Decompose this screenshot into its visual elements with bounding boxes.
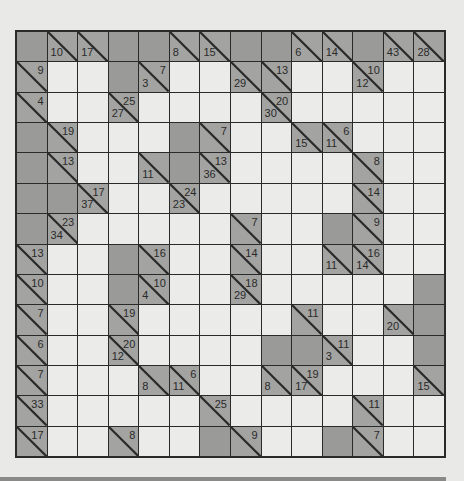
entry-cell[interactable] xyxy=(262,153,292,182)
entry-cell[interactable] xyxy=(323,305,353,334)
entry-cell[interactable] xyxy=(323,93,353,122)
entry-cell[interactable] xyxy=(200,305,230,334)
entry-cell[interactable] xyxy=(414,93,444,122)
entry-cell[interactable] xyxy=(231,123,261,152)
entry-cell[interactable] xyxy=(48,366,78,395)
entry-cell[interactable] xyxy=(414,123,444,152)
entry-cell[interactable] xyxy=(200,62,230,91)
entry-cell[interactable] xyxy=(231,184,261,213)
entry-cell[interactable] xyxy=(414,214,444,243)
entry-cell[interactable] xyxy=(200,275,230,304)
entry-cell[interactable] xyxy=(414,62,444,91)
entry-cell[interactable] xyxy=(78,366,108,395)
entry-cell[interactable] xyxy=(262,396,292,425)
entry-cell[interactable] xyxy=(48,62,78,91)
entry-cell[interactable] xyxy=(170,214,200,243)
entry-cell[interactable] xyxy=(384,427,414,456)
entry-cell[interactable] xyxy=(262,275,292,304)
entry-cell[interactable] xyxy=(323,62,353,91)
entry-cell[interactable] xyxy=(262,123,292,152)
entry-cell[interactable] xyxy=(262,305,292,334)
entry-cell[interactable] xyxy=(384,184,414,213)
entry-cell[interactable] xyxy=(78,93,108,122)
entry-cell[interactable] xyxy=(231,396,261,425)
entry-cell[interactable] xyxy=(139,123,169,152)
entry-cell[interactable] xyxy=(323,275,353,304)
entry-cell[interactable] xyxy=(48,396,78,425)
entry-cell[interactable] xyxy=(200,184,230,213)
entry-cell[interactable] xyxy=(353,123,383,152)
entry-cell[interactable] xyxy=(414,427,444,456)
entry-cell[interactable] xyxy=(353,93,383,122)
entry-cell[interactable] xyxy=(170,245,200,274)
entry-cell[interactable] xyxy=(323,184,353,213)
entry-cell[interactable] xyxy=(384,245,414,274)
entry-cell[interactable] xyxy=(109,184,139,213)
entry-cell[interactable] xyxy=(384,153,414,182)
entry-cell[interactable] xyxy=(200,214,230,243)
entry-cell[interactable] xyxy=(109,123,139,152)
entry-cell[interactable] xyxy=(170,275,200,304)
entry-cell[interactable] xyxy=(384,366,414,395)
entry-cell[interactable] xyxy=(139,93,169,122)
entry-cell[interactable] xyxy=(292,62,322,91)
entry-cell[interactable] xyxy=(48,427,78,456)
entry-cell[interactable] xyxy=(78,427,108,456)
entry-cell[interactable] xyxy=(292,93,322,122)
entry-cell[interactable] xyxy=(78,396,108,425)
entry-cell[interactable] xyxy=(384,93,414,122)
entry-cell[interactable] xyxy=(384,123,414,152)
entry-cell[interactable] xyxy=(200,93,230,122)
entry-cell[interactable] xyxy=(231,336,261,365)
entry-cell[interactable] xyxy=(170,93,200,122)
entry-cell[interactable] xyxy=(48,245,78,274)
entry-cell[interactable] xyxy=(231,366,261,395)
entry-cell[interactable] xyxy=(139,396,169,425)
entry-cell[interactable] xyxy=(109,366,139,395)
entry-cell[interactable] xyxy=(109,396,139,425)
entry-cell[interactable] xyxy=(78,62,108,91)
entry-cell[interactable] xyxy=(323,366,353,395)
entry-cell[interactable] xyxy=(48,336,78,365)
entry-cell[interactable] xyxy=(170,427,200,456)
entry-cell[interactable] xyxy=(78,245,108,274)
entry-cell[interactable] xyxy=(200,336,230,365)
entry-cell[interactable] xyxy=(323,153,353,182)
entry-cell[interactable] xyxy=(384,396,414,425)
entry-cell[interactable] xyxy=(139,214,169,243)
entry-cell[interactable] xyxy=(292,396,322,425)
entry-cell[interactable] xyxy=(231,305,261,334)
entry-cell[interactable] xyxy=(78,214,108,243)
entry-cell[interactable] xyxy=(170,396,200,425)
entry-cell[interactable] xyxy=(139,184,169,213)
entry-cell[interactable] xyxy=(292,245,322,274)
entry-cell[interactable] xyxy=(170,336,200,365)
entry-cell[interactable] xyxy=(78,336,108,365)
entry-cell[interactable] xyxy=(48,93,78,122)
entry-cell[interactable] xyxy=(109,214,139,243)
entry-cell[interactable] xyxy=(262,427,292,456)
entry-cell[interactable] xyxy=(353,366,383,395)
entry-cell[interactable] xyxy=(170,62,200,91)
entry-cell[interactable] xyxy=(139,336,169,365)
entry-cell[interactable] xyxy=(200,366,230,395)
entry-cell[interactable] xyxy=(353,336,383,365)
entry-cell[interactable] xyxy=(292,184,322,213)
entry-cell[interactable] xyxy=(231,153,261,182)
entry-cell[interactable] xyxy=(414,153,444,182)
entry-cell[interactable] xyxy=(48,305,78,334)
entry-cell[interactable] xyxy=(414,396,444,425)
entry-cell[interactable] xyxy=(78,153,108,182)
entry-cell[interactable] xyxy=(292,275,322,304)
entry-cell[interactable] xyxy=(200,245,230,274)
entry-cell[interactable] xyxy=(384,336,414,365)
entry-cell[interactable] xyxy=(414,184,444,213)
entry-cell[interactable] xyxy=(139,427,169,456)
entry-cell[interactable] xyxy=(292,427,322,456)
entry-cell[interactable] xyxy=(170,305,200,334)
entry-cell[interactable] xyxy=(292,214,322,243)
entry-cell[interactable] xyxy=(384,62,414,91)
entry-cell[interactable] xyxy=(384,214,414,243)
entry-cell[interactable] xyxy=(139,305,169,334)
entry-cell[interactable] xyxy=(414,245,444,274)
